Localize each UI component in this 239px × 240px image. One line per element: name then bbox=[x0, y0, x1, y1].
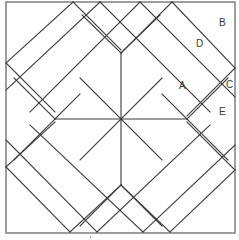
label-a: A bbox=[179, 81, 186, 91]
cross-nw-b bbox=[6, 63, 55, 112]
right-kite-bottom bbox=[187, 119, 228, 160]
bottom-mark bbox=[90, 236, 91, 238]
se-band-outer bbox=[170, 170, 235, 232]
cross-ne-b bbox=[187, 68, 235, 116]
left-kite-top bbox=[14, 78, 55, 119]
cross-nw-a bbox=[73, 2, 121, 50]
quilt-block-diagram bbox=[0, 0, 239, 240]
ne-band-outer bbox=[172, 2, 235, 68]
cross-ne-a bbox=[121, 2, 172, 53]
pattern-lines bbox=[6, 2, 235, 232]
sw-band-outer bbox=[6, 167, 70, 232]
kite-edge-ne bbox=[162, 94, 187, 119]
cross-se-b bbox=[121, 185, 170, 232]
nw-band-outer bbox=[6, 2, 73, 63]
label-c: C bbox=[226, 80, 233, 90]
s-strip-right bbox=[30, 125, 143, 232]
cross-sw-a bbox=[6, 122, 55, 167]
cross-sw-b bbox=[70, 185, 121, 232]
label-d: D bbox=[196, 39, 203, 49]
label-e: E bbox=[219, 107, 226, 117]
cross-se-a bbox=[187, 122, 235, 170]
kite-edge-nw bbox=[55, 94, 80, 119]
top-kite-left bbox=[82, 15, 121, 53]
label-b: B bbox=[219, 18, 226, 28]
